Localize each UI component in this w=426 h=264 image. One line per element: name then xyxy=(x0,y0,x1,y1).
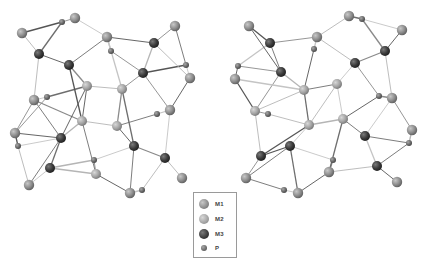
p-atom xyxy=(59,19,65,25)
bond xyxy=(165,110,170,158)
bond xyxy=(304,84,337,90)
bond xyxy=(170,78,190,110)
right-structure xyxy=(230,11,417,198)
p-atom xyxy=(235,63,241,69)
bond xyxy=(50,168,96,174)
legend-item-m3: M3 xyxy=(199,227,224,241)
bond xyxy=(298,172,329,193)
bond xyxy=(238,66,281,72)
m2-atom xyxy=(304,120,314,130)
bond xyxy=(290,146,298,193)
bond xyxy=(82,121,96,174)
m3-atom xyxy=(34,49,44,59)
m1-atom xyxy=(397,25,407,35)
m3-atom xyxy=(350,58,360,68)
bond xyxy=(107,37,154,43)
m1-atom xyxy=(10,128,20,138)
legend-label-m1: M1 xyxy=(215,201,224,207)
m1-atom xyxy=(170,21,180,31)
m1-atom xyxy=(241,173,251,183)
p-atom xyxy=(154,111,160,117)
bond xyxy=(392,98,412,130)
bond xyxy=(235,79,255,111)
p-atom xyxy=(139,187,145,193)
m3-atom xyxy=(138,68,148,78)
legend-item-p: P xyxy=(201,241,219,255)
legend-label-m2: M2 xyxy=(215,216,224,222)
p-atom xyxy=(91,157,97,163)
bond xyxy=(355,63,379,96)
m3-atom xyxy=(276,67,286,77)
m3-atom xyxy=(129,141,139,151)
m1-atom xyxy=(125,188,135,198)
m1-atom xyxy=(387,93,397,103)
bond xyxy=(130,146,134,193)
bond xyxy=(107,37,122,89)
m1-atom xyxy=(244,21,254,31)
bond xyxy=(337,84,343,119)
m1-atom-icon xyxy=(199,199,209,209)
bond xyxy=(50,160,94,168)
bond xyxy=(117,114,157,126)
bond xyxy=(117,89,122,126)
p-atom xyxy=(183,62,189,68)
bond xyxy=(238,43,270,66)
m1-atom xyxy=(29,95,39,105)
m3-atom-icon xyxy=(199,229,209,239)
m1-atom xyxy=(102,32,112,42)
p-atom xyxy=(15,143,21,149)
bond xyxy=(365,98,392,136)
bond xyxy=(309,119,343,125)
bond xyxy=(29,138,61,185)
bond xyxy=(143,73,170,110)
m3-atom xyxy=(45,163,55,173)
bond xyxy=(290,146,333,160)
bond xyxy=(329,119,343,172)
m2-atom xyxy=(77,116,87,126)
bond xyxy=(47,86,87,97)
bond xyxy=(261,125,309,156)
bond xyxy=(317,16,349,37)
left-bonds xyxy=(15,18,190,193)
legend-label-p: P xyxy=(215,245,219,251)
bond xyxy=(365,136,409,143)
bond xyxy=(246,178,284,190)
bond xyxy=(175,26,186,65)
m2-atom xyxy=(338,114,348,124)
m1-atom xyxy=(70,13,80,23)
m2-atom xyxy=(112,121,122,131)
p-atom xyxy=(44,94,50,100)
bond xyxy=(249,26,281,72)
p-atom xyxy=(281,187,287,193)
m1-atom xyxy=(312,32,322,42)
bond xyxy=(304,90,309,125)
m1-atom xyxy=(407,125,417,135)
p-atom xyxy=(359,16,365,22)
legend-label-m3: M3 xyxy=(215,231,224,237)
m1-atom xyxy=(185,73,195,83)
m2-atom xyxy=(82,81,92,91)
bond xyxy=(82,121,117,126)
bond xyxy=(309,84,337,125)
m2-atom-icon xyxy=(199,214,209,224)
bond xyxy=(255,111,261,156)
bond xyxy=(18,146,29,185)
left-structure xyxy=(10,13,195,198)
bond xyxy=(69,37,107,65)
m2-atom xyxy=(91,169,101,179)
bond xyxy=(268,114,309,125)
m1-atom xyxy=(17,28,27,38)
m3-atom xyxy=(360,131,370,141)
bond xyxy=(235,79,304,90)
bond xyxy=(34,54,39,100)
bond xyxy=(18,138,61,146)
m3-atom xyxy=(372,161,382,171)
m2-atom xyxy=(117,84,127,94)
m2-atom xyxy=(332,79,342,89)
m1-atom xyxy=(165,105,175,115)
p-atom-icon xyxy=(201,245,207,251)
bond xyxy=(304,49,314,90)
p-atom xyxy=(265,111,271,117)
bond xyxy=(87,86,122,89)
legend: M1 M2 M3 P xyxy=(193,192,237,258)
